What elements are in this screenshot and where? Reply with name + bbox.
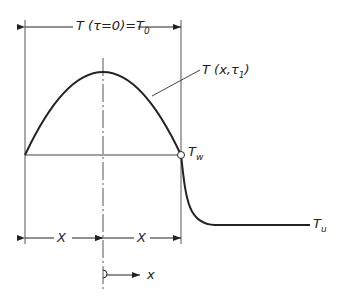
curve-label-leader [152, 70, 200, 96]
curve-label: T (x,τ1) [202, 62, 250, 77]
temperature-profile-diagram [0, 0, 339, 304]
x-axis-label: x [147, 267, 155, 282]
diagram-canvas: T (τ=0)=T0 T (x,τ1) Tw Tu X X x [0, 0, 339, 304]
wall-point [178, 152, 185, 159]
origin-mark [103, 270, 107, 278]
half-width-left-label: X [57, 230, 66, 245]
ambient-temp-label: Tu [313, 216, 327, 231]
ambient-decay-curve [181, 155, 310, 225]
top-label: T (τ=0)=T0 [76, 18, 150, 33]
wall-temp-label: Tw [188, 144, 203, 159]
half-width-right-label: X [137, 230, 146, 245]
